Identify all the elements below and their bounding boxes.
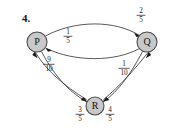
- edge-label-q-to-r-numerator: 4: [108, 106, 112, 114]
- edge-label-q-to-p-denominator: 5: [66, 37, 70, 45]
- node-p-label: P: [34, 36, 40, 47]
- node-q[interactable]: Q: [137, 32, 157, 52]
- edge-label-q-to-r-denominator: 5: [108, 115, 112, 123]
- edge-q-to-p-path: [47, 49, 140, 59]
- edge-label-r-to-p-denominator: 10: [45, 65, 53, 73]
- node-q-label: Q: [143, 36, 151, 47]
- transition-diagram-figure: 4.: [0, 0, 173, 132]
- edge-r-to-p-path: [36, 53, 87, 100]
- edge-label-p-to-q-numerator: 2: [139, 7, 143, 15]
- edge-p-to-q: [46, 24, 141, 37]
- edge-label-p-to-q: 2 5: [137, 7, 146, 24]
- edge-p-to-q-path: [46, 24, 140, 36]
- edge-label-r-to-p-numerator: 9: [47, 56, 51, 64]
- edge-r-to-p: [32, 51, 86, 99]
- edge-label-p-to-r: 3 5: [76, 106, 85, 123]
- edge-label-r-to-q-numerator: 1: [122, 60, 126, 68]
- graph-canvas: 4.: [0, 0, 173, 132]
- node-r-label: R: [92, 100, 99, 111]
- edge-label-q-to-p: 1 5: [64, 28, 73, 45]
- edge-label-p-to-q-denominator: 5: [139, 16, 143, 24]
- edge-label-r-to-q: 1 10: [118, 60, 129, 77]
- edge-q-to-p-arrowhead: [45, 48, 52, 52]
- edge-label-p-to-r-denominator: 5: [78, 115, 82, 123]
- question-number: 4.: [22, 12, 31, 24]
- edge-label-r-to-q-denominator: 10: [120, 69, 128, 77]
- edge-label-q-to-p-numerator: 1: [66, 28, 70, 36]
- edge-label-p-to-r-numerator: 3: [78, 106, 82, 114]
- edge-q-to-p: [45, 48, 139, 59]
- node-r[interactable]: R: [86, 97, 104, 115]
- edge-label-q-to-r: 4 5: [106, 106, 115, 123]
- node-p[interactable]: P: [27, 32, 47, 52]
